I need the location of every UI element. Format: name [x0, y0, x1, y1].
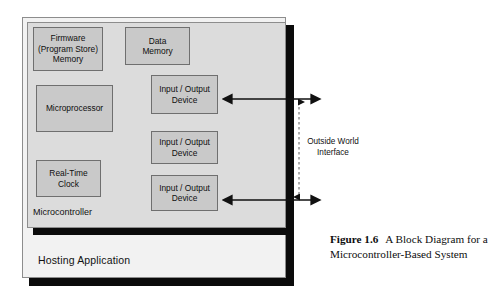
- outside-world-interface-label: Outside World Interface: [302, 136, 364, 158]
- block-data-memory-line1: Data: [142, 36, 172, 47]
- block-io-device-1-line1: Input / Output: [159, 84, 210, 95]
- block-real-time-clock-line1: Real-Time: [49, 168, 87, 179]
- block-io-device-2: Input / Output Device: [151, 131, 218, 164]
- block-data-memory: Data Memory: [125, 27, 190, 65]
- block-data-memory-line2: Memory: [142, 46, 172, 57]
- block-firmware-line2: (Program Store): [38, 44, 98, 55]
- outside-world-interface-line2: Interface: [317, 148, 349, 157]
- block-firmware-line1: Firmware: [38, 33, 98, 44]
- block-microprocessor: Microprocessor: [36, 85, 113, 132]
- block-microprocessor-line1: Microprocessor: [46, 103, 103, 114]
- figure-number: Figure 1.6: [330, 233, 378, 245]
- hosting-application-label: Hosting Application: [38, 254, 130, 266]
- block-real-time-clock-line2: Clock: [49, 179, 87, 190]
- block-io-device-1: Input / Output Device: [151, 75, 218, 114]
- block-firmware-line3: Memory: [38, 54, 98, 65]
- microcontroller-label: Microcontroller: [33, 207, 92, 217]
- block-io-device-3-line2: Device: [159, 193, 210, 204]
- block-io-device-3: Input / Output Device: [151, 175, 218, 211]
- block-io-device-1-line2: Device: [159, 95, 210, 106]
- outside-world-interface-line1: Outside World: [307, 137, 359, 146]
- figure-canvas: Firmware (Program Store) Memory Data Mem…: [0, 0, 501, 305]
- block-firmware: Firmware (Program Store) Memory: [33, 27, 103, 71]
- block-io-device-2-line1: Input / Output: [159, 137, 210, 148]
- figure-caption: Figure 1.6A Block Diagram for a Microcon…: [330, 232, 498, 261]
- block-real-time-clock: Real-Time Clock: [36, 160, 101, 197]
- block-io-device-2-line2: Device: [159, 148, 210, 159]
- block-io-device-3-line1: Input / Output: [159, 183, 210, 194]
